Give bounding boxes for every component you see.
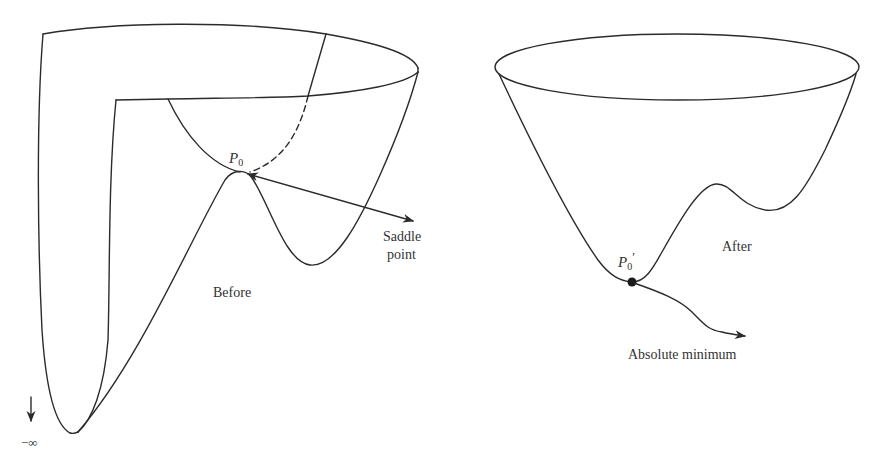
before-surface (31, 24, 418, 433)
before-caption: Before (213, 285, 251, 300)
saddle-arrow (248, 174, 413, 221)
absolute-minimum-label: Absolute minimum (628, 347, 737, 362)
hidden-curve (250, 96, 308, 172)
saddle-label-line1: Saddle (383, 229, 421, 244)
minimum-arrow (634, 283, 745, 336)
left-wall (499, 74, 632, 282)
inner-left-edge (78, 100, 116, 432)
after-surface (495, 34, 859, 336)
rim-divider (308, 34, 326, 96)
p0-label: P0 (228, 150, 243, 168)
minus-infinity-label: −∞ (21, 435, 38, 450)
absolute-minimum-point (628, 278, 637, 287)
outer-left-edge (38, 34, 70, 433)
inner-rim (116, 72, 418, 100)
diagram-canvas: P0 Saddle point Before −∞ P0′ After Abso… (0, 0, 876, 463)
bottom-junction (70, 432, 78, 433)
outer-rim (43, 24, 418, 68)
rim-ellipse (495, 34, 859, 100)
saddle-ridge-curve (78, 72, 418, 432)
p0-prime-label: P0′ (617, 249, 635, 272)
after-caption: After (722, 239, 752, 254)
saddle-label-line2: point (387, 247, 416, 262)
